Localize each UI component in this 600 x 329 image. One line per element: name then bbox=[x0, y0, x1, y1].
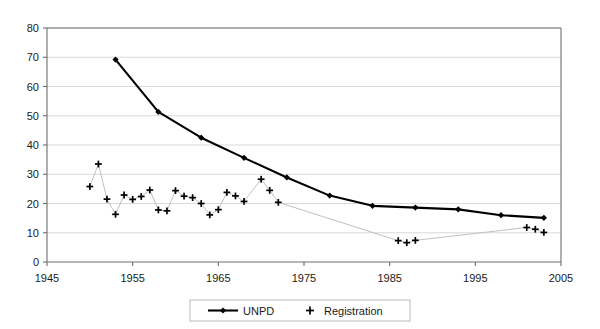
registration-data-point bbox=[215, 206, 222, 213]
x-axis-tick-labels: 1945195519651975198519952005 bbox=[35, 262, 573, 284]
x-tick-label: 1975 bbox=[292, 272, 316, 284]
unpd-data-point bbox=[327, 193, 333, 199]
unpd-data-point bbox=[455, 206, 461, 212]
y-tick-label: 80 bbox=[27, 22, 39, 34]
registration-data-point bbox=[224, 189, 231, 196]
y-tick-label: 0 bbox=[33, 256, 39, 268]
series-unpd bbox=[112, 56, 547, 220]
registration-data-point bbox=[155, 207, 162, 214]
chart-legend: UNPDRegistration bbox=[190, 300, 410, 321]
registration-data-point bbox=[86, 183, 93, 190]
registration-data-point bbox=[412, 237, 419, 244]
registration-data-point bbox=[129, 196, 136, 203]
registration-data-point bbox=[164, 207, 171, 214]
y-tick-label: 40 bbox=[27, 139, 39, 151]
legend-label-unpd: UNPD bbox=[243, 305, 274, 317]
registration-data-point bbox=[523, 224, 530, 231]
y-tick-label: 70 bbox=[27, 51, 39, 63]
y-tick-label: 10 bbox=[27, 227, 39, 239]
registration-data-point bbox=[189, 194, 196, 201]
registration-data-point bbox=[95, 161, 102, 168]
registration-data-point bbox=[121, 192, 128, 199]
y-tick-label: 60 bbox=[27, 81, 39, 93]
x-tick-label: 1965 bbox=[206, 272, 230, 284]
unpd-data-point bbox=[541, 215, 547, 221]
registration-data-point bbox=[540, 229, 547, 236]
registration-data-point bbox=[232, 192, 239, 199]
registration-data-point bbox=[104, 196, 111, 203]
y-tick-label: 30 bbox=[27, 168, 39, 180]
registration-data-point bbox=[403, 239, 410, 246]
registration-data-point bbox=[198, 200, 205, 207]
unpd-data-point bbox=[284, 174, 290, 180]
legend-label-registration: Registration bbox=[324, 305, 383, 317]
registration-data-point bbox=[181, 193, 188, 200]
unpd-data-point bbox=[412, 204, 418, 210]
chart-container: 01020304050607080 1945195519651975198519… bbox=[0, 0, 600, 329]
x-tick-label: 1945 bbox=[35, 272, 59, 284]
registration-data-point bbox=[395, 237, 402, 244]
y-tick-label: 50 bbox=[27, 110, 39, 122]
registration-data-point bbox=[532, 226, 539, 233]
y-axis-tick-labels: 01020304050607080 bbox=[27, 22, 47, 268]
registration-data-point bbox=[138, 193, 145, 200]
unpd-data-point bbox=[498, 212, 504, 218]
registration-data-point bbox=[112, 211, 119, 218]
x-tick-label: 1985 bbox=[377, 272, 401, 284]
registration-data-point bbox=[146, 187, 153, 194]
x-tick-label: 1995 bbox=[463, 272, 487, 284]
y-tick-label: 20 bbox=[27, 198, 39, 210]
registration-data-point bbox=[275, 199, 282, 206]
registration-data-point bbox=[206, 212, 213, 219]
x-tick-label: 1955 bbox=[120, 272, 144, 284]
line-chart: 01020304050607080 1945195519651975198519… bbox=[0, 0, 600, 329]
x-tick-label: 2005 bbox=[549, 272, 573, 284]
registration-data-point bbox=[172, 187, 179, 194]
gridlines-group bbox=[47, 28, 561, 233]
